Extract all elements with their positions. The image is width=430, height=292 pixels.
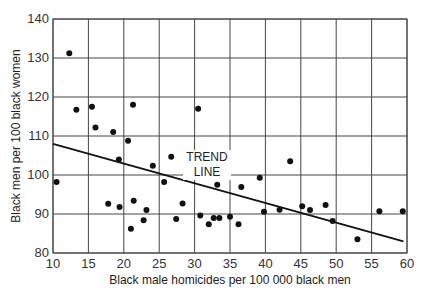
data-point: [227, 214, 233, 220]
data-point: [128, 226, 134, 232]
data-point: [161, 179, 167, 185]
y-tick-label: 130: [27, 50, 49, 65]
data-point: [330, 218, 336, 224]
x-tick-label: 55: [364, 256, 378, 271]
data-point: [307, 207, 313, 213]
data-point: [235, 221, 241, 227]
y-tick-label: 90: [35, 206, 49, 221]
x-tick-label: 50: [329, 256, 343, 271]
data-point: [195, 106, 201, 112]
data-point: [323, 202, 329, 208]
data-point: [261, 209, 267, 215]
data-point: [180, 200, 186, 206]
data-point: [116, 156, 122, 162]
data-point: [287, 158, 293, 164]
data-point: [214, 182, 220, 188]
x-axis-ticks: 1015202530354045505560: [46, 256, 414, 271]
data-point: [54, 179, 60, 185]
y-axis-ticks: 8090100110120130140: [27, 11, 49, 260]
y-tick-label: 140: [27, 11, 49, 26]
y-tick-label: 100: [27, 167, 49, 182]
data-point: [66, 50, 72, 56]
data-point: [238, 184, 244, 190]
data-point: [105, 201, 111, 207]
data-point: [299, 203, 305, 209]
data-point: [73, 107, 79, 113]
data-point: [173, 216, 179, 222]
data-point: [400, 208, 406, 214]
data-point: [92, 124, 98, 130]
y-axis-label: Black men per 100 black women: [9, 49, 23, 222]
trend-annotation: TREND LINE: [183, 150, 231, 180]
annotation-trend: TREND: [186, 150, 228, 164]
data-point: [277, 207, 283, 213]
y-tick-label: 80: [35, 245, 49, 260]
x-tick-label: 35: [223, 256, 237, 271]
x-axis-label: Black male homicides per 100 000 black m…: [109, 273, 350, 287]
data-point: [150, 163, 156, 169]
data-point: [257, 175, 263, 181]
data-point: [125, 138, 131, 144]
data-point: [354, 236, 360, 242]
x-tick-label: 45: [294, 256, 308, 271]
data-point: [168, 154, 174, 160]
data-point: [141, 217, 147, 223]
y-tick-label: 110: [28, 128, 49, 143]
y-tick-label: 120: [27, 89, 49, 104]
data-point: [89, 104, 95, 110]
data-point: [143, 207, 149, 213]
x-tick-label: 20: [117, 256, 131, 271]
data-point: [131, 198, 137, 204]
annotation-line: LINE: [194, 165, 221, 179]
data-point: [130, 102, 136, 108]
data-point: [206, 221, 212, 227]
data-point: [197, 213, 203, 219]
data-point: [110, 129, 116, 135]
x-tick-label: 15: [81, 256, 95, 271]
x-tick-label: 40: [258, 256, 272, 271]
x-tick-label: 30: [187, 256, 201, 271]
data-point: [376, 208, 382, 214]
scatter-chart: 1015202530354045505560 80901001101201301…: [0, 0, 430, 292]
data-point: [216, 215, 222, 221]
data-point: [117, 204, 123, 210]
data-point: [211, 215, 217, 221]
x-tick-label: 60: [400, 256, 414, 271]
x-tick-label: 25: [152, 256, 166, 271]
